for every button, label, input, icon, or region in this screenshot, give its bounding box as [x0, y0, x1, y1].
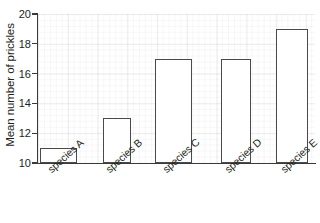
y-axis-tick-label: 16 [5, 68, 31, 80]
y-axis-tick-label: 18 [5, 38, 31, 50]
y-axis-tick-mark [32, 162, 37, 163]
y-axis-tick-label: 10 [5, 157, 31, 169]
bar [40, 148, 77, 163]
y-axis-tick-mark [32, 133, 37, 134]
plot-area [38, 14, 315, 163]
y-axis-tick-mark [32, 103, 37, 104]
bar-chart-figure: Mean number of prickles 101214161820 spe… [0, 0, 320, 223]
y-axis-tick-mark [32, 13, 37, 14]
bar [221, 59, 251, 163]
y-axis-tick-labels: 101214161820 [0, 0, 31, 223]
bar [276, 29, 308, 163]
y-axis-tick-label: 12 [5, 127, 31, 139]
y-axis-tick-mark [32, 73, 37, 74]
y-axis-tick-label: 14 [5, 97, 31, 109]
y-axis-tick-label: 20 [5, 8, 31, 20]
bar [103, 118, 131, 163]
y-axis-tick-mark [32, 43, 37, 44]
bar [155, 59, 192, 163]
